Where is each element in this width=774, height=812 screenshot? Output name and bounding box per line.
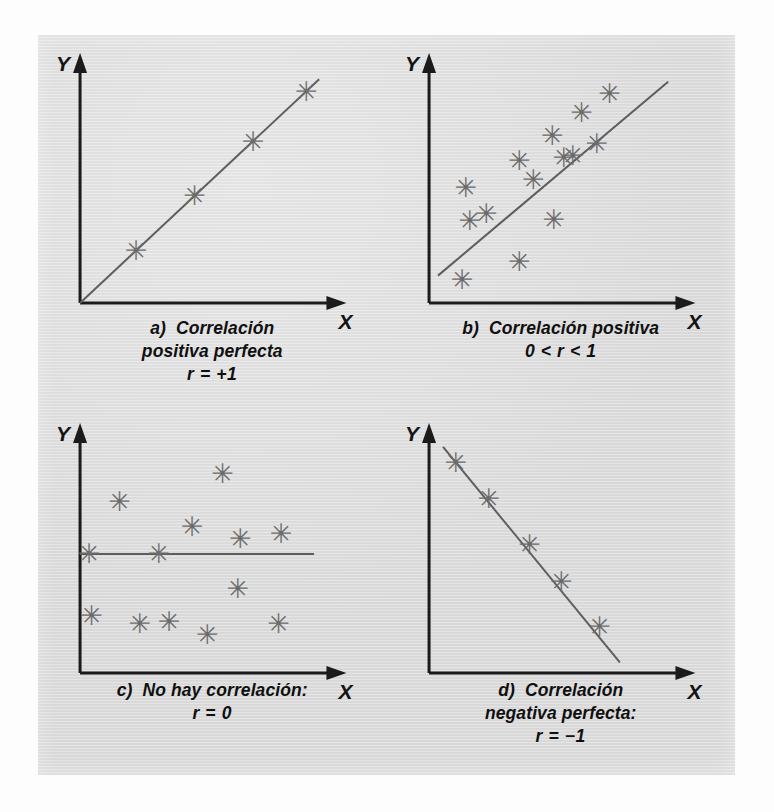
panel-d: YX✳✳✳✳✳ d) Correlaciónnegativa perfecta:…	[387, 405, 736, 775]
figure-root: YX✳✳✳✳ a) Correlaciónpositiva perfectar …	[0, 0, 774, 812]
data-point-marker: ✳	[454, 172, 477, 203]
data-point-marker: ✳	[267, 608, 290, 639]
data-point-marker: ✳	[229, 523, 252, 554]
y-axis-arrowhead	[73, 423, 87, 443]
data-point-marker: ✳	[542, 204, 565, 235]
data-point-marker: ✳	[181, 511, 204, 542]
data-point-marker: ✳	[125, 235, 148, 266]
y-axis-label: Y	[405, 52, 421, 75]
data-point-marker: ✳	[242, 126, 265, 157]
data-point-marker: ✳	[450, 264, 473, 295]
caption-line: c) No hay correlación:	[38, 679, 387, 702]
data-point-marker: ✳	[585, 128, 608, 159]
figure-plate: YX✳✳✳✳ a) Correlaciónpositiva perfectar …	[38, 35, 735, 775]
data-point-marker: ✳	[108, 486, 131, 517]
data-point-marker: ✳	[211, 458, 234, 489]
x-axis-arrowhead	[675, 666, 695, 680]
data-point-marker: ✳	[196, 619, 219, 650]
y-axis-arrowhead	[422, 423, 436, 443]
panel-c: YX✳✳✳✳✳✳✳✳✳✳✳✳✳ c) No hay correlación:r …	[38, 405, 387, 775]
data-point-marker: ✳	[80, 600, 103, 631]
caption-line: d) Correlación	[387, 679, 736, 702]
data-point-marker: ✳	[518, 529, 541, 560]
x-axis-arrowhead	[675, 296, 695, 310]
data-point-marker: ✳	[588, 611, 611, 642]
caption-line: negativa perfecta:	[387, 702, 736, 725]
data-point-marker: ✳	[444, 447, 467, 478]
y-axis-arrowhead	[73, 53, 87, 73]
data-point-marker: ✳	[474, 198, 497, 229]
caption-line: r = 0	[38, 702, 387, 725]
data-point-marker: ✳	[78, 539, 101, 570]
caption-line: positiva perfecta	[38, 340, 387, 363]
y-axis-label: Y	[56, 52, 72, 75]
data-point-marker: ✳	[598, 78, 621, 109]
caption-line: a) Correlación	[38, 317, 387, 340]
data-point-marker: ✳	[226, 573, 249, 604]
y-axis-arrowhead	[422, 53, 436, 73]
panel-c-caption: c) No hay correlación:r = 0	[38, 679, 387, 725]
data-point-marker: ✳	[522, 164, 545, 195]
panel-b: YX✳✳✳✳✳✳✳✳✳✳✳✳✳✳ b) Correlación positiva…	[387, 35, 736, 405]
panel-a: YX✳✳✳✳ a) Correlaciónpositiva perfectar …	[38, 35, 387, 405]
data-point-marker: ✳	[158, 606, 181, 637]
caption-line: 0 < r < 1	[387, 340, 736, 363]
x-axis-arrowhead	[326, 666, 346, 680]
y-axis-label: Y	[405, 422, 421, 445]
panel-grid: YX✳✳✳✳ a) Correlaciónpositiva perfectar …	[38, 35, 735, 775]
caption-line: b) Correlación positiva	[387, 317, 736, 340]
data-point-marker: ✳	[148, 539, 171, 570]
data-point-marker: ✳	[270, 518, 293, 549]
caption-line: r = −1	[387, 725, 736, 748]
panel-b-caption: b) Correlación positiva0 < r < 1	[387, 317, 736, 363]
data-point-marker: ✳	[477, 483, 500, 514]
data-point-marker: ✳	[129, 608, 152, 639]
data-point-marker: ✳	[508, 246, 531, 277]
y-axis-label: Y	[56, 422, 72, 445]
panel-a-caption: a) Correlaciónpositiva perfectar = +1	[38, 317, 387, 386]
data-point-marker: ✳	[570, 97, 593, 128]
x-axis-arrowhead	[326, 296, 346, 310]
data-point-marker: ✳	[550, 566, 573, 597]
caption-line: r = +1	[38, 363, 387, 386]
data-point-marker: ✳	[561, 140, 584, 171]
panel-d-caption: d) Correlaciónnegativa perfecta:r = −1	[387, 679, 736, 748]
data-point-marker: ✳	[295, 76, 318, 107]
data-point-marker: ✳	[183, 180, 206, 211]
